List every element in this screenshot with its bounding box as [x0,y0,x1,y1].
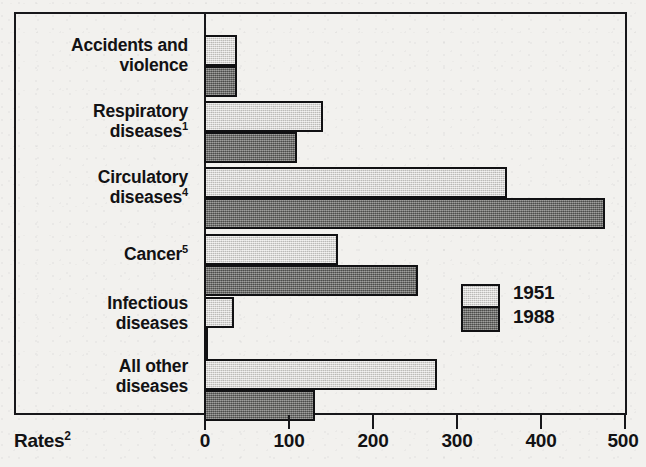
footnote-marker: 4 [182,186,188,198]
bar-cancer-1988 [204,265,418,296]
legend: 1951 1988 [461,284,591,334]
legend-swatch-1951 [463,286,498,308]
footnote-marker: 1 [182,120,188,132]
legend-label-1951: 1951 [513,282,554,304]
category-label-line2: diseases [110,121,182,141]
category-label-infectious-diseases: Infectious diseases [14,294,196,334]
category-label-line1: Cancer [124,244,182,264]
category-label-line2: diseases [116,313,188,333]
value-axis: 0 100 200 300 400 500 [0,415,646,467]
axis-title-text: Rates [14,430,64,451]
legend-swatch-1988 [463,308,498,330]
category-label-line1: Infectious [107,293,188,313]
x-tick-300 [456,415,458,429]
category-label-line2: violence [120,55,188,75]
bar-circulatory-diseases-1951 [204,167,507,198]
bar-respiratory-diseases-1988 [204,132,297,163]
category-axis-labels: Accidents and violence Respiratory disea… [14,12,204,415]
x-tick-label-500: 500 [588,430,646,452]
x-tick-500 [624,415,626,429]
bar-respiratory-diseases-1951 [204,101,323,132]
category-label-line1: Respiratory [93,101,188,121]
bar-chart: Accidents and violence Respiratory disea… [0,0,646,467]
category-label-respiratory-diseases: Respiratory diseases1 [14,102,196,142]
category-label-line2: diseases [110,187,182,207]
x-tick-label-0: 0 [170,430,240,452]
category-label-line1: Accidents and [71,35,188,55]
legend-label-1988: 1988 [513,306,554,328]
legend-swatch-group [461,284,500,332]
x-tick-400 [540,415,542,429]
category-label-line1: Circulatory [98,167,188,187]
category-label-cancer: Cancer5 [14,245,196,265]
bar-cancer-1951 [204,234,338,265]
bar-infectious-diseases-1951 [204,297,234,328]
axis-title-rates: Rates2 [14,430,71,452]
x-tick-label-300: 300 [422,430,492,452]
category-label-line1: All other [119,356,188,376]
category-label-accidents-and-violence: Accidents and violence [14,36,196,76]
x-tick-label-400: 400 [506,430,576,452]
category-label-circulatory-diseases: Circulatory diseases4 [14,168,196,208]
bars-layer [204,12,627,415]
bar-accidents-and-violence-1951 [204,35,237,66]
x-tick-200 [372,415,374,429]
x-tick-label-200: 200 [338,430,408,452]
bar-circulatory-diseases-1988 [204,198,605,229]
footnote-marker: 5 [182,243,188,255]
bar-all-other-diseases-1951 [204,359,437,390]
category-label-all-other-diseases: All other diseases [14,357,196,397]
footnote-marker: 2 [64,429,70,443]
x-tick-100 [288,415,290,429]
category-label-line2: diseases [116,376,188,396]
bar-accidents-and-violence-1988 [204,66,237,97]
bar-infectious-diseases-1988 [204,328,208,359]
x-tick-0 [204,415,206,429]
x-tick-label-100: 100 [254,430,324,452]
